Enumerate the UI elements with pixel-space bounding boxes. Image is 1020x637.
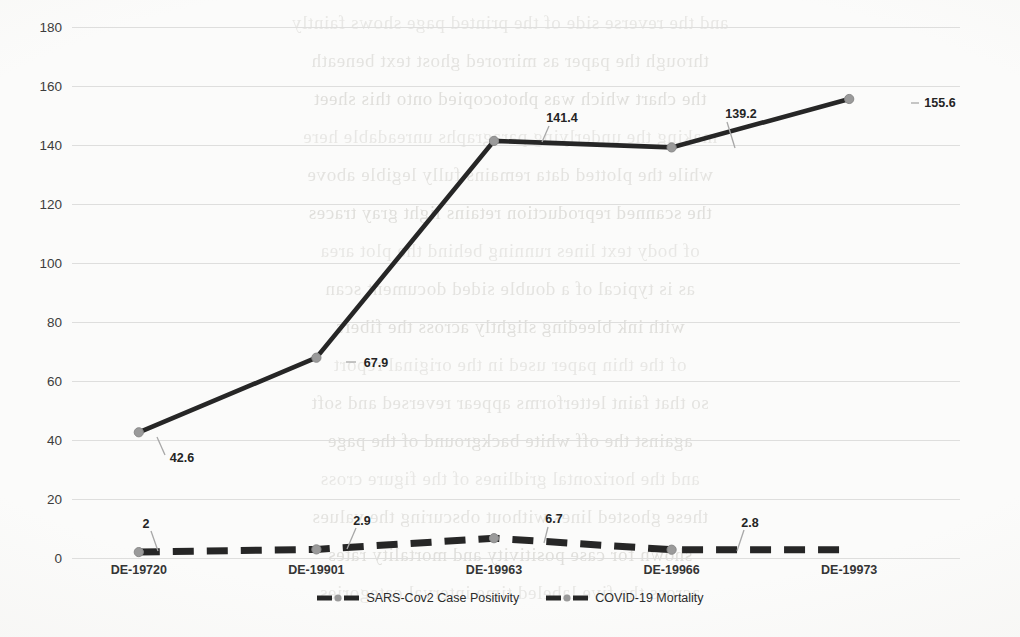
data-point-marker — [134, 428, 143, 437]
data-label-42.6: 42.6 — [170, 451, 194, 465]
line-chart: 020406080100120140160180 42.667.9141.413… — [0, 0, 1020, 637]
series-line-1 — [139, 99, 849, 432]
legend-item-2[interactable]: COVID-19 Mortality — [545, 591, 703, 605]
data-point-marker — [667, 143, 676, 152]
label-leader-line — [737, 530, 744, 551]
legend-label: COVID-19 Mortality — [595, 591, 703, 605]
line-marker-solid-icon — [316, 591, 360, 605]
x-axis-tick-DE-19963: DE-19963 — [466, 563, 522, 577]
data-label-2.8: 2.8 — [741, 516, 758, 530]
label-leader-line — [727, 122, 735, 148]
legend-item-1[interactable]: SARS-Cov2 Case Positivity — [316, 591, 519, 605]
legend-label: SARS-Cov2 Case Positivity — [366, 591, 519, 605]
data-point-marker — [667, 545, 676, 554]
data-label-139.2: 139.2 — [725, 107, 756, 121]
x-axis-tick-DE-19720: DE-19720 — [111, 563, 167, 577]
chart-legend: SARS-Cov2 Case PositivityCOVID-19 Mortal… — [0, 591, 1020, 605]
x-axis-tick-DE-19901: DE-19901 — [288, 563, 344, 577]
label-leader-line — [157, 437, 165, 455]
x-axis-tick-DE-19973: DE-19973 — [821, 563, 877, 577]
data-label-2.9: 2.9 — [353, 514, 370, 528]
data-label-67.9: 67.9 — [364, 356, 388, 370]
data-point-marker — [312, 545, 321, 554]
data-point-marker — [134, 548, 143, 557]
data-point-marker — [312, 353, 321, 362]
data-point-marker — [845, 94, 854, 103]
series-layer — [0, 0, 1020, 637]
data-point-marker — [489, 534, 498, 543]
data-label-141.4: 141.4 — [546, 111, 577, 125]
data-label-155.6: 155.6 — [924, 96, 955, 110]
line-marker-dashed-icon — [545, 591, 589, 605]
data-point-marker — [489, 136, 498, 145]
x-axis-tick-DE-19966: DE-19966 — [643, 563, 699, 577]
data-label-6.7: 6.7 — [545, 512, 562, 526]
x-axis-labels: DE-19720DE-19901DE-19963DE-19966DE-19973 — [72, 563, 960, 583]
data-label-2: 2 — [143, 517, 150, 531]
label-leader-line — [151, 531, 158, 551]
label-leader-line — [542, 126, 549, 142]
